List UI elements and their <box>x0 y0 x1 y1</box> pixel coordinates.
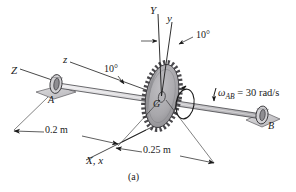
axis-label-X-x: X, x <box>86 155 103 166</box>
angle-label-y-tilt: 10° <box>196 30 210 40</box>
angular-velocity-label: ωAB = 30 rad/s <box>218 88 279 101</box>
figure-caption: (a) <box>128 172 139 182</box>
gear-shaft-dynamics-figure: Y y Z z X, x 10° 10° A B G ωAB = 30 rad/… <box>0 0 296 192</box>
axis-label-y: y <box>167 13 172 24</box>
dimension-label-0.2m: 0.2 m <box>45 125 68 135</box>
omega-subscript: AB <box>225 92 234 101</box>
angle-label-z-tilt: 10° <box>104 64 118 74</box>
axis-label-z: z <box>63 54 67 65</box>
axis-label-Y: Y <box>150 5 156 16</box>
axis-label-Z: Z <box>11 65 17 76</box>
dimension-label-0.25m: 0.25 m <box>143 145 171 155</box>
center-of-mass-label-G: G <box>153 99 160 109</box>
angle-y-leader <box>141 37 193 44</box>
bearing-label-B: B <box>268 121 274 131</box>
omega-label-hook <box>214 88 216 101</box>
bearing-label-A: A <box>48 95 54 105</box>
omega-value-text: = 30 rad/s <box>235 87 280 98</box>
